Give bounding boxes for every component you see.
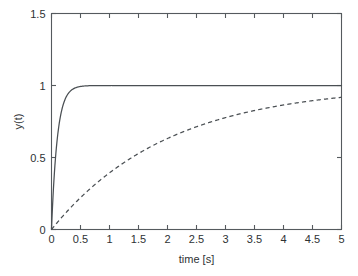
x-tick-label-4: 2 <box>164 233 170 245</box>
y-tick-label-2: 1 <box>39 80 45 92</box>
figure-canvas: 00.511.522.533.544.5500.511.5time [s]y(t… <box>0 0 358 276</box>
y-tick-label-0: 0 <box>39 224 45 236</box>
x-tick-label-3: 1.5 <box>131 233 146 245</box>
y-axis-label: y(t) <box>12 114 24 130</box>
x-tick-label-7: 3.5 <box>247 233 262 245</box>
x-tick-label-0: 0 <box>48 233 54 245</box>
x-axis-label: time [s] <box>179 253 214 265</box>
x-tick-label-5: 2.5 <box>189 233 204 245</box>
series-curve-0 <box>52 86 342 230</box>
y-tick-label-1: 0.5 <box>30 152 45 164</box>
y-tick-label-3: 1.5 <box>30 8 45 20</box>
x-tick-label-2: 1 <box>106 233 112 245</box>
x-tick-label-8: 4 <box>280 233 286 245</box>
x-tick-label-1: 0.5 <box>73 233 88 245</box>
x-tick-label-9: 4.5 <box>305 233 320 245</box>
series-curve-1 <box>52 97 342 229</box>
x-tick-label-10: 5 <box>338 233 344 245</box>
x-tick-label-6: 3 <box>222 233 228 245</box>
plot-box <box>52 14 342 230</box>
chart-plot: 00.511.522.533.544.5500.511.5time [s]y(t… <box>0 0 358 276</box>
